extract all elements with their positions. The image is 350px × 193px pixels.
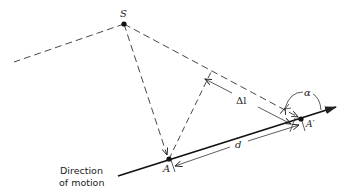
d-tick-right xyxy=(302,121,305,131)
point-a xyxy=(166,156,171,161)
direction-of-motion-line xyxy=(118,107,336,176)
label-a-prime: A′ xyxy=(305,119,315,129)
dashed-line-left xyxy=(14,24,124,62)
label-delta-l: Δl xyxy=(236,95,246,106)
label-direction-of-motion-line2: of motion xyxy=(59,177,104,188)
point-a-prime xyxy=(298,116,303,121)
doppler-geometry-diagram: S A A′ Δl d α Direction of motion xyxy=(0,0,350,193)
label-a: A xyxy=(162,163,170,174)
label-direction-of-motion-line1: Direction xyxy=(60,165,103,176)
dashed-line-s-to-a xyxy=(124,24,167,155)
perpendicular-dashed-line xyxy=(169,72,211,159)
label-s: S xyxy=(120,8,127,19)
label-d: d xyxy=(235,139,241,150)
d-tick-left xyxy=(171,160,175,172)
label-alpha: α xyxy=(304,87,311,98)
delta-l-dimension-upper xyxy=(205,79,232,93)
alpha-angle-arc xyxy=(285,92,321,110)
point-s xyxy=(121,21,126,26)
delta-l-dimension-lower xyxy=(258,107,291,124)
